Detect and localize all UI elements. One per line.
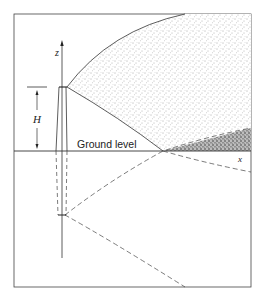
x-axis-label: x [237, 154, 242, 164]
z-axis-arrowhead-icon [60, 40, 63, 46]
height-label: H [32, 113, 42, 125]
image-plume-lower-edge [65, 215, 185, 287]
height-arrow-down-icon [36, 144, 39, 149]
plume-diagram: z H Ground level x [0, 0, 263, 301]
image-stack-right-wall [66, 151, 67, 215]
ground-level-label: Ground level [77, 138, 137, 150]
image-stack-left-wall [56, 151, 58, 215]
stack-left-wall [56, 87, 59, 151]
plume-region [67, 14, 251, 151]
stack-right-wall [66, 87, 67, 151]
z-axis-label: z [54, 47, 59, 58]
height-arrow-up-icon [36, 90, 39, 95]
